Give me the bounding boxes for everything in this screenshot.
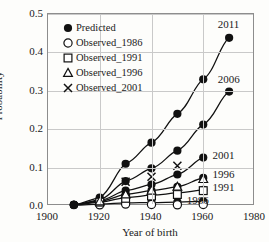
- legend-label: Observed_1996: [76, 67, 143, 78]
- marker-open-triangle: [64, 68, 73, 76]
- y-tick-label: 0.3: [29, 85, 43, 96]
- marker-open-circle: [173, 201, 181, 209]
- x-tick-label: 1940: [131, 211, 171, 222]
- y-tick-label: 0.4: [29, 46, 43, 57]
- legend-item-observed_1991: Observed_1991: [61, 50, 181, 65]
- legend-marker-open-square: [61, 51, 75, 65]
- marker-filled-circle: [173, 170, 181, 178]
- observed-point-Observed_1991: [173, 191, 181, 199]
- legend-glyph: [64, 54, 72, 62]
- curve-end-label-1991: 1991: [213, 182, 235, 193]
- curve-end-label-2006: 2006: [218, 74, 240, 85]
- gridline-horizontal: [48, 129, 253, 130]
- series-line-2001: [74, 158, 203, 205]
- legend-item-observed_1996: Observed_1996: [61, 65, 181, 80]
- legend-item-predicted: Predicted: [61, 20, 181, 35]
- curve-end-label-2011: 2011: [218, 19, 240, 30]
- marker-filled-circle: [173, 147, 181, 155]
- legend-item-observed_2001: Observed_2001: [61, 80, 181, 95]
- legend-label: Observed_1986: [76, 37, 143, 48]
- x-tick-label: 1920: [79, 211, 119, 222]
- data-point-2001: [173, 170, 181, 178]
- legend-glyph: [64, 68, 73, 76]
- legend-glyph: [64, 84, 72, 92]
- legend-glyph: [64, 23, 72, 31]
- y-tick-label: 0.5: [29, 8, 43, 19]
- marker-filled-circle: [225, 34, 233, 42]
- gridline-horizontal: [48, 14, 253, 15]
- marker-filled-circle: [70, 201, 78, 209]
- gridline-vertical: [203, 14, 204, 204]
- marker-open-square: [64, 54, 72, 62]
- observed-point-Observed_1986: [173, 201, 181, 209]
- legend-label: Observed_1991: [76, 52, 143, 63]
- y-axis-title: Probability: [0, 72, 4, 121]
- x-tick-label: 1980: [234, 211, 269, 222]
- x-tick-label: 1900: [27, 211, 67, 222]
- marker-filled-circle: [173, 110, 181, 118]
- curve-end-label-1986: 1986: [187, 195, 209, 206]
- marker-open-circle: [64, 38, 72, 46]
- data-point-2006: [173, 147, 181, 155]
- legend-marker-open-circle: [61, 36, 75, 50]
- data-point-2011: [173, 110, 181, 118]
- marker-cross-x: [64, 84, 72, 92]
- curve-end-label-2001: 2001: [213, 150, 235, 161]
- legend-item-observed_1986: Observed_1986: [61, 35, 181, 50]
- x-axis-title: Year of birth: [122, 226, 178, 238]
- legend-marker-filled-circle: [61, 21, 75, 35]
- figure: Probability 0.00.10.20.30.40.5 190019201…: [0, 0, 269, 242]
- y-tick-label: 0.1: [29, 162, 43, 173]
- legend-marker-open-triangle: [61, 66, 75, 80]
- y-tick-label: 0.2: [29, 123, 43, 134]
- legend-label: Observed_2001: [76, 82, 143, 93]
- marker-filled-circle: [64, 23, 72, 31]
- curve-end-label-1996: 1996: [213, 169, 235, 180]
- legend: PredictedObserved_1986Observed_1991Obser…: [61, 20, 181, 95]
- x-tick-label: 1960: [182, 211, 222, 222]
- legend-marker-cross-x: [61, 81, 75, 95]
- data-point-2011: [225, 34, 233, 42]
- marker-open-square: [173, 191, 181, 199]
- data-point-1986: [70, 201, 78, 209]
- legend-glyph: [64, 38, 72, 46]
- legend-label: Predicted: [76, 22, 116, 33]
